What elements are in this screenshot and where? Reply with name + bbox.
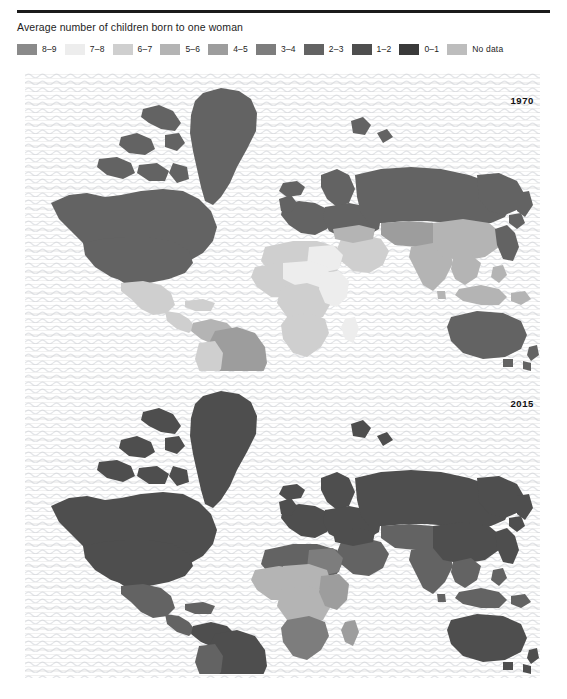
world-map-2015[interactable] [25,374,540,674]
legend-4-5[interactable]: 4–5 [208,44,248,55]
region-central-america [165,311,195,333]
legend-8-9-label: 8–9 [42,44,57,54]
region-kamchatka [517,494,533,520]
region-sri-lanka [437,594,446,602]
legend-3-4-swatch [256,44,276,55]
region-japan-north [509,213,525,229]
region-new-zealand [523,648,539,674]
region-sri-lanka [437,291,446,299]
region-australia [447,311,527,359]
region-china [433,219,501,261]
legend-1-2-swatch [352,44,372,55]
region-canada-arctic [97,408,189,486]
region-kamchatka [517,191,533,217]
region-svalbard [351,117,393,143]
region-indonesia [455,588,531,608]
region-china [433,522,501,564]
region-svalbard [351,420,393,446]
legend-no-data-label: No data [472,44,503,54]
legend-5-6-label: 5–6 [185,44,200,54]
region-indonesia [455,285,531,305]
legend-7-8-label: 7–8 [90,44,105,54]
world-map-1970[interactable] [25,71,540,371]
legend-8-9-swatch [17,44,37,55]
legend-1-2[interactable]: 1–2 [352,44,392,55]
year-label-1970: 1970 [510,95,534,106]
landmasses-1970 [51,88,539,371]
legend-0-1-label: 0–1 [424,44,439,54]
region-southeast-asia [451,255,481,285]
region-southern-africa [281,313,329,357]
legend-4-5-label: 4–5 [233,44,248,54]
map-panel-1970[interactable] [25,71,540,371]
legend-6-7-swatch [113,44,133,55]
region-southern-africa [281,616,329,660]
region-greenland [190,88,257,205]
legend-2-3-label: 2–3 [329,44,344,54]
legend-3-4-label: 3–4 [281,44,296,54]
legend-6-7[interactable]: 6–7 [113,44,153,55]
legend-0-1[interactable]: 0–1 [399,44,439,55]
legend-7-8-swatch [65,44,85,55]
region-korea-japan [495,225,519,261]
region-usa [83,540,193,586]
region-usa [83,237,193,283]
region-philippines [491,568,507,586]
region-greenland [190,391,257,508]
figure-title: Average number of children born to one w… [17,20,243,34]
legend-4-5-swatch [208,44,228,55]
region-tasmania [503,662,513,670]
legend-0-1-swatch [399,44,419,55]
region-central-america [165,614,195,636]
region-iceland [279,181,305,197]
region-japan-north [509,516,525,532]
legend-7-8[interactable]: 7–8 [65,44,105,55]
map-stage: 1970 2015 [25,71,540,678]
legend-5-6[interactable]: 5–6 [160,44,200,55]
region-scandinavia [321,472,355,510]
map-panel-2015[interactable] [25,374,540,674]
legend-1-2-label: 1–2 [377,44,392,54]
region-mexico [121,281,175,315]
legend-3-4[interactable]: 3–4 [256,44,296,55]
region-canada-arctic [97,105,189,183]
header-rule [17,10,550,13]
region-mexico [121,584,175,618]
region-korea-japan [495,528,519,564]
region-scandinavia [321,169,355,207]
region-tasmania [503,359,513,367]
region-madagascar [341,317,359,343]
legend: 8–97–86–75–64–53–42–31–20–1No data [17,42,552,56]
region-philippines [491,265,507,283]
region-new-zealand [523,345,539,371]
region-madagascar [341,620,359,646]
region-iceland [279,484,305,500]
legend-2-3-swatch [304,44,324,55]
year-label-2015: 2015 [510,398,534,409]
fertility-map-figure: Average number of children born to one w… [0,0,567,699]
region-australia [447,614,527,662]
legend-6-7-label: 6–7 [138,44,153,54]
legend-2-3[interactable]: 2–3 [304,44,344,55]
legend-no-data-swatch [447,44,467,55]
legend-5-6-swatch [160,44,180,55]
region-caribbean [185,299,215,311]
region-southeast-asia [451,558,481,588]
legend-no-data[interactable]: No data [447,44,503,55]
legend-8-9[interactable]: 8–9 [17,44,57,55]
region-caribbean [185,602,215,614]
landmasses-2015 [51,391,539,674]
